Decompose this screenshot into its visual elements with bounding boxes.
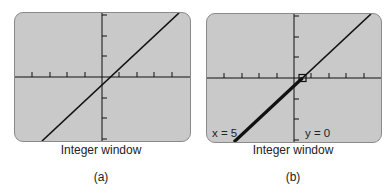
calculator-screen-a (14, 12, 191, 142)
graph-a (15, 13, 190, 141)
panel-b: x = 5 y = 0 Integer window (b) (194, 0, 389, 191)
caption-b: Integer window (253, 143, 334, 157)
traced-segment (234, 78, 303, 142)
panel-label-b: (b) (286, 170, 301, 184)
panel-label-a: (a) (94, 170, 109, 184)
trace-readout-x: x = 5 (212, 127, 237, 139)
calculator-screen-b: x = 5 y = 0 (206, 13, 382, 143)
graph-b (207, 14, 381, 142)
caption-a: Integer window (61, 143, 142, 157)
panel-a: Integer window (a) (0, 0, 195, 191)
trace-readout-y: y = 0 (305, 127, 330, 139)
